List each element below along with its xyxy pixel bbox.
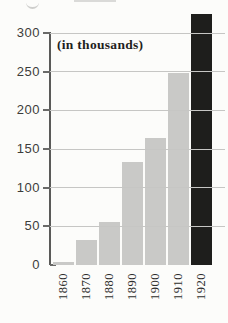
gridline-50 xyxy=(50,226,225,227)
y-tick-label-200: 200 xyxy=(2,102,40,118)
y-tick-250 xyxy=(43,71,50,73)
bar-1890 xyxy=(122,162,143,265)
units-annotation: (in thousands) xyxy=(57,37,143,53)
gridline-150 xyxy=(50,149,225,150)
y-tick-50 xyxy=(43,225,50,227)
y-tick-300 xyxy=(43,32,50,34)
bar-1860 xyxy=(53,262,74,265)
scan-artifact xyxy=(26,0,39,9)
gridline-200 xyxy=(50,110,225,111)
y-tick-200 xyxy=(43,109,50,111)
y-tick-label-0: 0 xyxy=(2,257,40,273)
bar-1870 xyxy=(76,240,97,265)
y-tick-100 xyxy=(43,187,50,189)
y-tick-label-300: 300 xyxy=(2,25,40,41)
bar-1920 xyxy=(191,14,212,265)
x-tick-label-1920: 1920 xyxy=(183,267,221,305)
bar-1910 xyxy=(168,73,189,265)
gridline-300 xyxy=(50,33,225,34)
y-tick-label-250: 250 xyxy=(2,64,40,80)
y-tick-label-150: 150 xyxy=(2,141,40,157)
gridline-250 xyxy=(50,71,225,72)
gridline-100 xyxy=(50,187,225,188)
x-tick-label-text: 1920 xyxy=(194,273,209,300)
y-tick-label-100: 100 xyxy=(2,180,40,196)
bar-chart-figure: 050100150200250300 186018701880189019001… xyxy=(0,0,228,323)
y-tick-150 xyxy=(43,148,50,150)
bar-1880 xyxy=(99,222,120,265)
y-tick-label-50: 50 xyxy=(2,218,40,234)
bar-1900 xyxy=(145,138,166,265)
